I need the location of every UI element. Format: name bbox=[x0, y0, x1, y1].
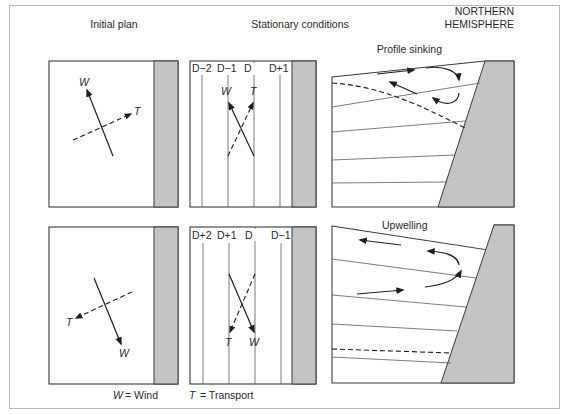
depth-label: D bbox=[244, 62, 252, 74]
profile-sinking-title: Profile sinking bbox=[377, 43, 443, 55]
depth-label: D+1 bbox=[269, 62, 289, 74]
wind-label: W bbox=[249, 336, 260, 348]
upwelling-title: Upwelling bbox=[382, 219, 428, 231]
initial-plan-top-panel: W T bbox=[49, 61, 178, 207]
coastal-upwelling-diagram: Initial plan Stationary conditions NORTH… bbox=[0, 0, 564, 415]
legend-transport-text: = Transport bbox=[200, 389, 253, 401]
depth-label: D−1 bbox=[217, 62, 237, 74]
profile-sinking-panel: Profile sinking bbox=[332, 43, 514, 207]
header-hemisphere-line1: NORTHERN bbox=[455, 5, 514, 17]
header-initial-plan: Initial plan bbox=[90, 18, 137, 30]
depth-label: D+2 bbox=[192, 229, 212, 241]
depth-label: D−1 bbox=[271, 229, 291, 241]
depth-label: D+1 bbox=[217, 229, 237, 241]
depth-label: D−2 bbox=[192, 62, 212, 74]
header-hemisphere-line2: HEMISPHERE bbox=[445, 18, 514, 30]
wind-label: W bbox=[221, 85, 232, 97]
depth-label: D bbox=[245, 229, 253, 241]
coast-land-strip bbox=[154, 61, 178, 207]
wind-label: W bbox=[119, 347, 130, 359]
upwelling-panel: Upwelling bbox=[332, 219, 514, 383]
initial-plan-bottom-panel: T W bbox=[49, 227, 178, 384]
legend-wind-symbol: W bbox=[113, 389, 124, 401]
stationary-bottom-panel: D+2 D+1 D D−1 T W bbox=[190, 227, 316, 384]
legend-wind-text: = Wind bbox=[125, 389, 158, 401]
coast-land-strip bbox=[154, 227, 178, 384]
legend-transport-symbol: T bbox=[189, 389, 197, 401]
coast-land-strip bbox=[292, 61, 316, 207]
header-stationary-conditions: Stationary conditions bbox=[251, 18, 348, 30]
coast-land-strip bbox=[292, 227, 316, 384]
wind-label: W bbox=[79, 76, 90, 88]
stationary-top-panel: D−2 D−1 D D+1 W T bbox=[190, 61, 316, 207]
legend: W = Wind T = Transport bbox=[113, 389, 253, 401]
